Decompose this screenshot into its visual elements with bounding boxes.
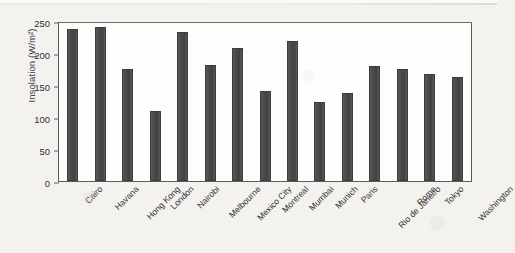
bar (150, 111, 161, 181)
bar (369, 66, 380, 181)
x-tick-label: Mumbai (307, 184, 336, 213)
x-tick-label: Nairobi (195, 184, 221, 210)
bar-slot (389, 23, 416, 181)
bar (67, 29, 78, 181)
x-tick-label: Havana (113, 184, 141, 212)
x-tick-label: Washington (476, 184, 515, 223)
bar (397, 69, 408, 181)
bar-slot (444, 23, 471, 181)
bar (342, 93, 353, 181)
bar-slot (334, 23, 361, 181)
bar (314, 102, 325, 181)
y-tick-label: 150 (0, 82, 59, 93)
bar (424, 74, 435, 181)
bar-slot (86, 23, 113, 181)
bar-slot (59, 23, 86, 181)
bar-slot (361, 23, 388, 181)
x-axis-labels: CairoHavanaHong KongLondonNairobiMelbour… (58, 184, 472, 250)
bar-slot (169, 23, 196, 181)
bar-slot (196, 23, 223, 181)
bar-slot (279, 23, 306, 181)
x-tick-label: Munich (333, 184, 360, 211)
bar-slot (224, 23, 251, 181)
y-tick-label: 200 (0, 50, 59, 61)
x-tick-label: Paris (359, 184, 380, 205)
bar-slot (251, 23, 278, 181)
bar-slot (306, 23, 333, 181)
bar (260, 91, 271, 181)
bar (205, 65, 216, 181)
bar (452, 77, 463, 181)
y-tick-label: 0 (0, 178, 59, 189)
x-tick-label: Cairo (83, 184, 105, 206)
bar-slot (141, 23, 168, 181)
bar (232, 48, 243, 181)
y-tick-label: 250 (0, 18, 59, 29)
x-tick-label: Tokyo (442, 184, 465, 207)
bar (287, 41, 298, 181)
bar (177, 32, 188, 181)
y-tick-label: 50 (0, 146, 59, 157)
plot-area: 050100150200250 (58, 22, 472, 182)
bar-series (59, 23, 471, 181)
y-tick-label: 100 (0, 114, 59, 125)
bar (122, 69, 133, 181)
bar (95, 27, 106, 181)
bar-slot (416, 23, 443, 181)
bar-slot (114, 23, 141, 181)
